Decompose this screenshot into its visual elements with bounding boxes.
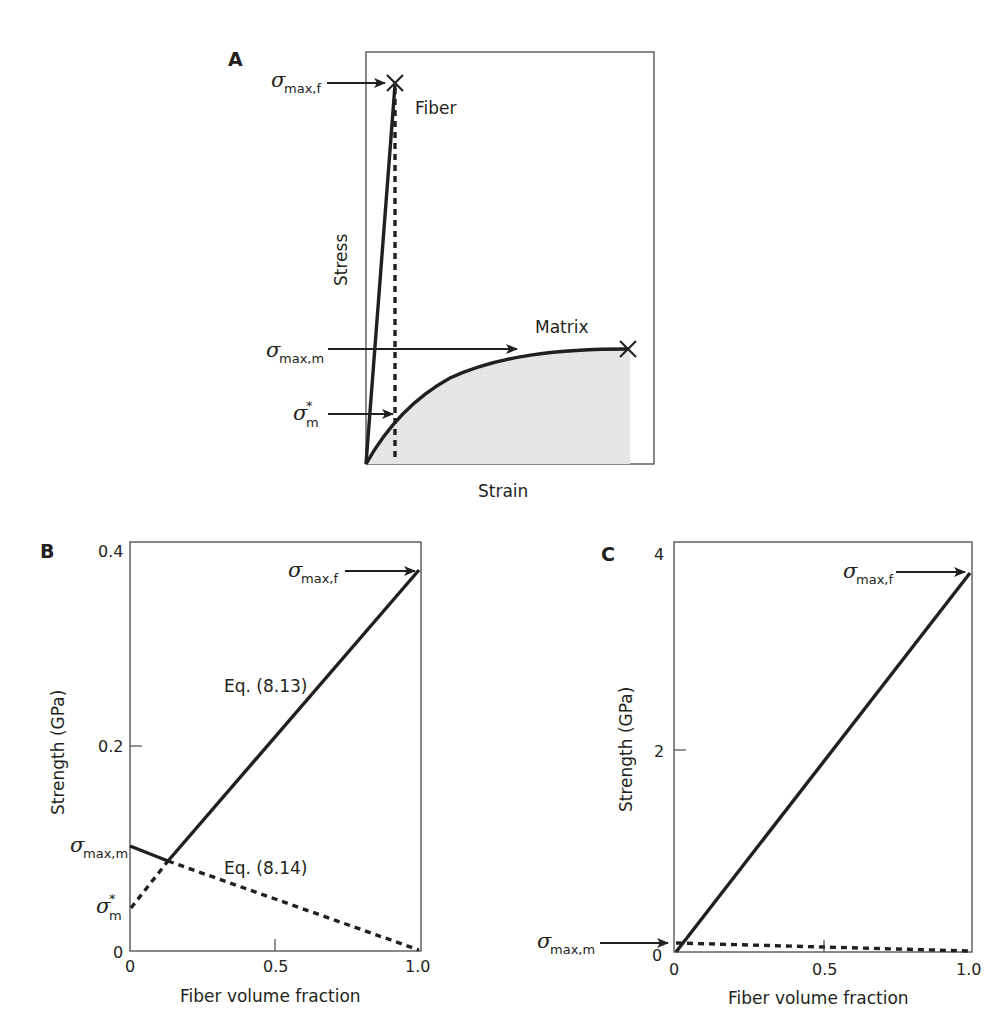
svg-text:m: m xyxy=(306,415,319,430)
eq-8-14-label: Eq. (8.14) xyxy=(224,858,307,878)
x-axis-label-c: Fiber volume fraction xyxy=(728,988,909,1008)
eq-8-13-solid-line xyxy=(168,570,419,861)
y-axis-label-b: Strength (GPa) xyxy=(48,690,68,815)
svg-text:*: * xyxy=(109,891,116,906)
x-axis-label-b: Fiber volume fraction xyxy=(180,986,361,1006)
panel-label-a: A xyxy=(228,48,243,70)
panel-a: A Fiber Matrix Stress Strain σ max,f xyxy=(228,48,654,501)
eq-8-14-dotted-line xyxy=(676,943,970,951)
annotation-sigma-max-m-a: σ max,m xyxy=(266,338,517,366)
x-axis-label-a: Strain xyxy=(478,481,528,501)
x-tick-label: 1.0 xyxy=(956,960,981,979)
annotation-sigma-star-m-b: σ * m xyxy=(96,891,122,923)
y-tick-label: 0.4 xyxy=(98,542,123,561)
svg-text:max,m: max,m xyxy=(279,351,324,366)
panel-label-b: B xyxy=(40,540,54,562)
annotation-sigma-max-m-c: σ max,m xyxy=(537,929,668,957)
y-tick-label: 0.2 xyxy=(98,737,123,756)
panel-b: B 0.4 0.2 0 0 0.5 1.0 Strength (GPa) Fib… xyxy=(40,540,430,1006)
svg-text:*: * xyxy=(306,398,313,413)
svg-text:max,f: max,f xyxy=(301,571,338,586)
x-tick-label: 0 xyxy=(125,957,135,976)
svg-text:max,m: max,m xyxy=(83,846,128,861)
annotation-sigma-max-f-c: σ max,f xyxy=(843,559,965,587)
x-tick-label: 0.5 xyxy=(263,957,288,976)
y-tick-label: 4 xyxy=(654,545,664,564)
y-tick-label: 0 xyxy=(652,946,662,965)
plot-frame-c xyxy=(674,542,972,952)
svg-text:max,f: max,f xyxy=(856,572,893,587)
eq-8-13-solid-line xyxy=(676,573,970,952)
figure: A Fiber Matrix Stress Strain σ max,f xyxy=(0,0,1006,1033)
fiber-line xyxy=(366,85,395,464)
y-axis-label-c: Strength (GPa) xyxy=(616,687,636,812)
y-axis-label-a: Stress xyxy=(331,234,351,286)
eq-8-14-solid-segment xyxy=(130,846,168,861)
panel-label-c: C xyxy=(601,543,615,565)
svg-text:m: m xyxy=(109,908,122,923)
matrix-label: Matrix xyxy=(535,317,589,337)
annotation-sigma-max-f-b: σ max,f xyxy=(288,558,415,586)
x-tick-label: 1.0 xyxy=(405,957,430,976)
svg-text:max,m: max,m xyxy=(550,942,595,957)
annotation-sigma-max-f-a: σ max,f xyxy=(271,68,385,96)
matrix-energy-shading xyxy=(366,349,630,464)
x-tick-label: 0.5 xyxy=(812,960,837,979)
y-tick-label: 0 xyxy=(113,943,123,962)
eq-8-13-label: Eq. (8.13) xyxy=(224,676,307,696)
eq-8-13-dotted-extension xyxy=(131,861,168,908)
annotation-sigma-max-m-b: σ max,m xyxy=(70,833,128,861)
x-tick-label: 0 xyxy=(669,960,679,979)
panel-c: C 4 2 0 0 0.5 1.0 Strength (GPa) Fiber v… xyxy=(537,542,981,1008)
plot-frame-b xyxy=(130,542,421,951)
annotation-sigma-star-m-a: σ * m xyxy=(293,398,393,430)
svg-text:max,f: max,f xyxy=(284,81,321,96)
fiber-label: Fiber xyxy=(415,98,457,118)
y-tick-label: 2 xyxy=(654,742,664,761)
